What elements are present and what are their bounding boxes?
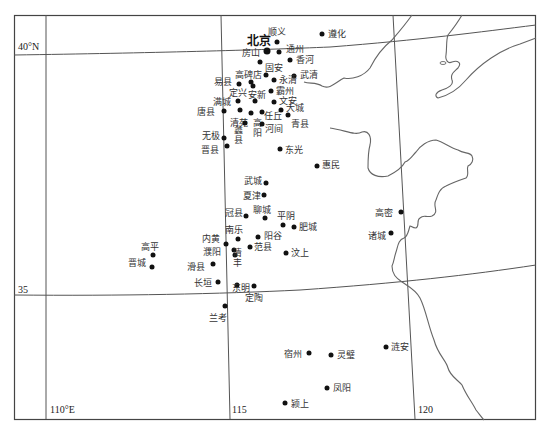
map-frame (15, 16, 536, 420)
city-label: 涟安 (391, 342, 409, 352)
city-label: 通州 (286, 44, 304, 54)
city-marker (263, 216, 268, 221)
city-label: 颍上 (291, 399, 309, 409)
city-label: 武清 (300, 70, 318, 80)
city-marker (307, 351, 312, 356)
city-marker (269, 89, 274, 94)
city-label: 聊城 (253, 205, 271, 215)
city-label: 濮阳 (203, 247, 221, 257)
city-label: 南乐 (225, 225, 243, 235)
city-marker (389, 231, 394, 236)
city-label: 易县 (214, 77, 232, 87)
city-label: 肥城 (299, 222, 317, 232)
city-label: 蠡县 (233, 125, 243, 145)
coastline-north (436, 15, 536, 98)
city-marker (248, 245, 253, 250)
city-label-capital: 北京 (247, 36, 271, 46)
city-label: 高平 (141, 242, 159, 252)
city-label: 凤阳 (333, 383, 351, 393)
lat-label-35: 35 (18, 284, 28, 295)
city-label: 灵璧 (337, 350, 355, 360)
city-label: 阳谷 (264, 231, 282, 241)
city-marker (223, 304, 228, 309)
city-marker (279, 108, 284, 113)
meridian-120 (393, 15, 415, 419)
city-label: 无极 (202, 131, 220, 141)
city-marker (384, 345, 389, 350)
city-label: 青县 (291, 119, 309, 129)
city-label: 唐县 (197, 107, 215, 117)
city-label: 永清 (279, 75, 297, 85)
city-label: 清丰 (232, 248, 242, 268)
city-label: 香河 (296, 55, 314, 65)
city-marker (243, 121, 248, 126)
city-label: 冠县 (225, 208, 243, 218)
city-label: 定陶 (245, 293, 263, 303)
city-marker (277, 50, 282, 55)
city-marker (236, 237, 241, 242)
city-label: 长垣 (194, 278, 212, 288)
city-label: 高碑店 (235, 70, 262, 80)
city-label: 霸州 (276, 86, 294, 96)
city-label: 夏津 (243, 191, 261, 201)
city-marker (249, 111, 254, 116)
city-marker (216, 280, 221, 285)
city-label: 任丘 (264, 111, 282, 121)
city-marker (281, 223, 286, 228)
city-marker (244, 214, 249, 219)
city-marker (211, 262, 216, 267)
city-marker (329, 353, 334, 358)
city-marker (151, 253, 156, 258)
city-label: 滑县 (187, 262, 205, 272)
city-marker (283, 401, 288, 406)
lon-label-115: 115 (232, 404, 247, 415)
coastline (304, 15, 412, 87)
city-marker (222, 109, 227, 114)
city-marker (325, 386, 330, 391)
city-marker (399, 210, 404, 215)
city-marker (222, 136, 227, 141)
city-label: 晋县 (201, 145, 219, 155)
city-label: 安新 (248, 90, 266, 100)
lon-label-120: 120 (418, 404, 433, 415)
city-marker (260, 122, 265, 127)
city-marker (272, 78, 277, 83)
city-marker (320, 32, 325, 37)
lat-label-40n: 40°N (18, 41, 39, 52)
city-marker-capital (264, 48, 271, 55)
city-marker (225, 144, 230, 149)
city-label: 顺义 (268, 27, 286, 37)
city-marker (284, 251, 289, 256)
city-label: 满城 (213, 97, 231, 107)
city-marker (262, 193, 267, 198)
city-label: 高密 (375, 208, 393, 218)
city-label: 汶上 (291, 248, 309, 258)
city-marker (251, 84, 256, 89)
city-label: 东光 (285, 145, 303, 155)
city-label: 兰考 (209, 313, 227, 323)
lon-label-110e: 110°E (50, 404, 75, 415)
city-marker (256, 235, 261, 240)
coastline-shandong (392, 200, 484, 420)
city-marker (272, 100, 277, 105)
city-marker (224, 242, 229, 247)
parallel-35 (14, 265, 536, 295)
city-marker (236, 99, 241, 104)
city-label: 遵化 (328, 29, 346, 39)
island (440, 62, 446, 65)
city-marker (292, 225, 297, 230)
city-label: 房山 (242, 48, 260, 58)
city-marker (252, 284, 257, 289)
city-marker (278, 147, 283, 152)
city-marker (150, 265, 155, 270)
city-label: 内黄 (202, 234, 220, 244)
city-label: 东明 (232, 283, 250, 293)
city-marker (238, 108, 243, 113)
city-label: 大城 (286, 103, 304, 113)
city-label: 范县 (254, 242, 272, 252)
city-marker (275, 40, 280, 45)
city-label: 固安 (265, 63, 283, 73)
city-marker (288, 58, 293, 63)
city-marker (315, 164, 320, 169)
city-label: 河间 (265, 124, 283, 134)
